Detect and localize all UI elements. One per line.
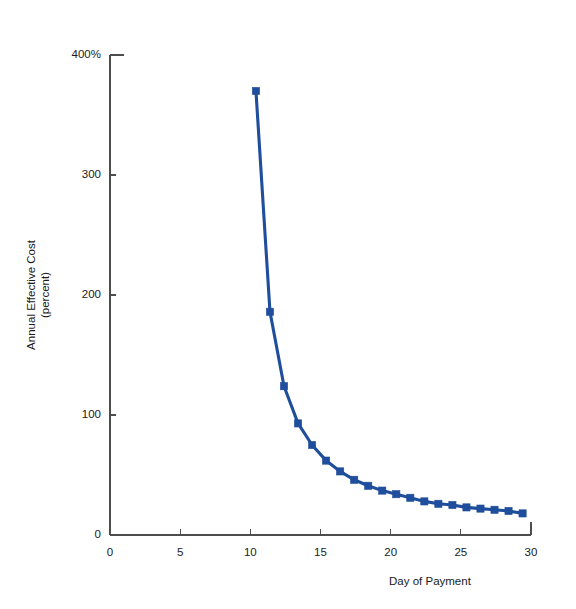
x-tick-label: 15 <box>314 547 327 559</box>
axis-lines <box>110 55 531 535</box>
x-tick-label: 25 <box>454 547 467 559</box>
y-axis-title: Annual Effective Cost (percent) <box>24 240 53 350</box>
data-point-markers <box>252 87 526 517</box>
y-tick-label: 200 <box>82 289 101 301</box>
x-tick-label: 5 <box>177 547 183 559</box>
x-tick-label: 20 <box>384 547 397 559</box>
y-tick-label: 300 <box>82 169 101 181</box>
y-tick-label: 100 <box>82 409 101 421</box>
y-axis-title-line2: (percent) <box>38 240 52 350</box>
x-tick-label: 30 <box>525 547 538 559</box>
data-series-line <box>256 91 523 513</box>
x-axis-title: Day of Payment <box>389 575 471 587</box>
y-axis-title-line1: Annual Effective Cost <box>25 240 37 350</box>
y-tick-label: 0 <box>95 529 101 541</box>
x-tick-label: 0 <box>107 547 113 559</box>
chart-plot-area <box>0 0 576 609</box>
x-tick-label: 10 <box>244 547 257 559</box>
chart-container: 0100200300400% 051015202530 Day of Payme… <box>0 0 576 609</box>
axis-ticks <box>110 55 531 535</box>
y-tick-label: 400% <box>72 49 101 61</box>
